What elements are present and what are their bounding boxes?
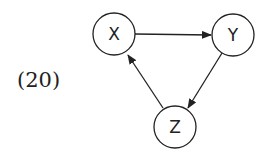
node-z-label: Z: [169, 117, 181, 137]
directed-cycle-diagram: X Y Z: [0, 0, 273, 158]
edge-x-to-y: [135, 34, 211, 35]
edge-z-to-x: [128, 55, 163, 108]
node-y: Y: [212, 14, 254, 56]
node-x: X: [93, 13, 135, 55]
node-y-label: Y: [227, 25, 239, 45]
edge-y-to-z: [188, 53, 222, 108]
node-x-label: X: [108, 24, 120, 44]
node-z: Z: [154, 106, 196, 148]
